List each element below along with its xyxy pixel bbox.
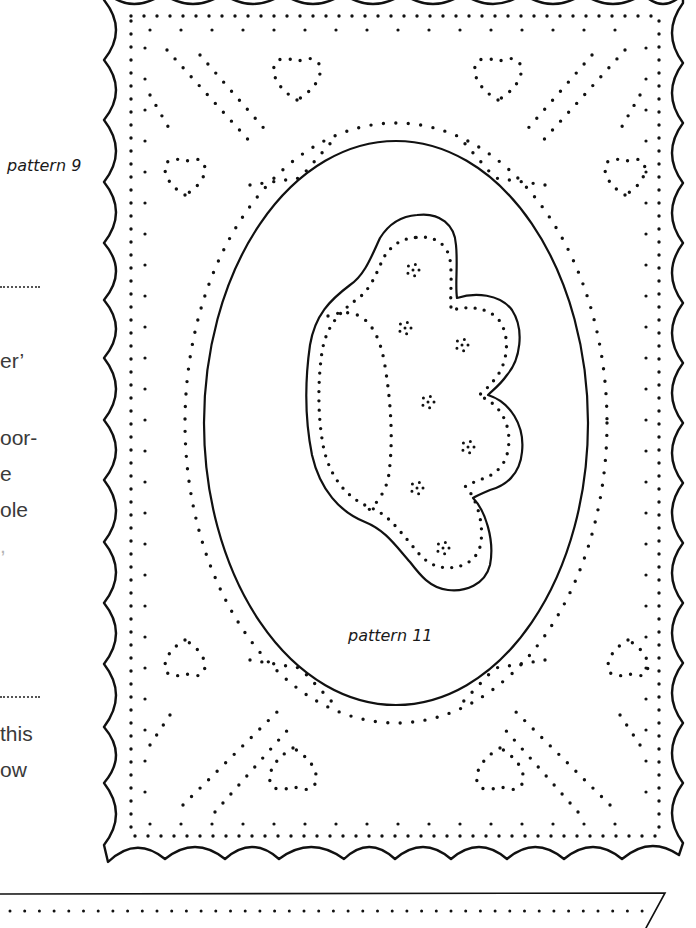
text-fragment: ole (0, 498, 28, 522)
pricking-pattern-artwork (0, 0, 696, 928)
pattern-9-label: pattern 9 (7, 156, 81, 176)
dotted-diagonal-bands (150, 50, 640, 812)
flower-outline (306, 215, 522, 591)
scalloped-frame-outline (104, 0, 683, 862)
text-fragment: this (0, 722, 33, 746)
rosette-centers (404, 269, 470, 550)
text-fragment: ow (0, 758, 27, 782)
dotted-hearts (165, 59, 648, 790)
dotted-rosettes (399, 264, 474, 554)
dotted-separator (0, 286, 40, 288)
text-fragment: er’ (0, 349, 24, 373)
dotted-separator (0, 696, 40, 698)
oval-window (204, 141, 588, 705)
dotted-inner-border (131, 16, 659, 836)
text-fragment: e (0, 462, 12, 486)
flower-dotted-divider (328, 313, 391, 514)
text-fragment: oor- (0, 426, 37, 450)
bottom-strip-pattern (0, 893, 665, 928)
pattern-11-label: pattern 11 (348, 626, 433, 646)
text-fragment: , (0, 534, 6, 558)
